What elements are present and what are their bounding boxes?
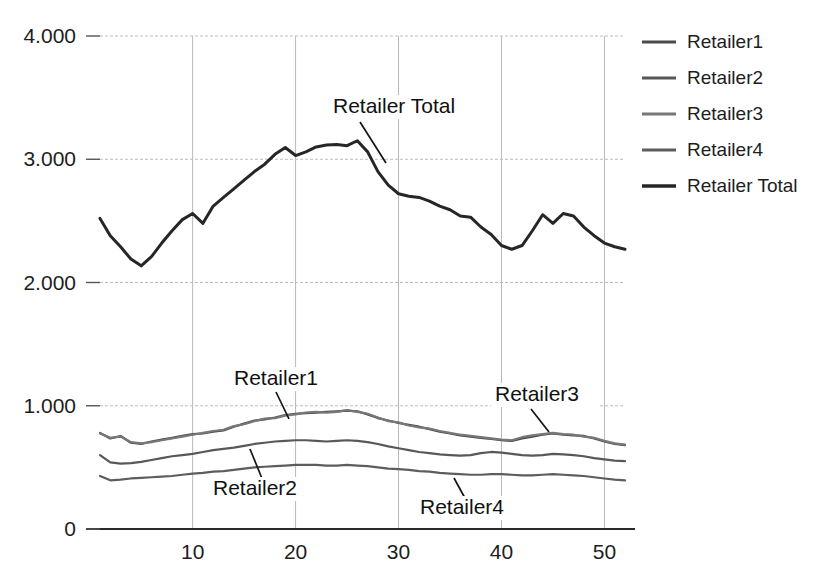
legend-label-retailer-total[interactable]: Retailer Total xyxy=(687,175,798,196)
line-chart: 01.0002.0003.0004.0001020304050 Retailer… xyxy=(0,0,825,584)
legend-label-retailer1[interactable]: Retailer1 xyxy=(687,31,763,52)
x-axis-tick-label: 30 xyxy=(387,540,410,563)
y-axis-tick-label: 2.000 xyxy=(23,271,76,294)
annotation-label: Retailer4 xyxy=(420,495,504,518)
annotation-label: Retailer3 xyxy=(495,382,579,405)
y-axis-tick-label: 4.000 xyxy=(23,24,76,47)
annotation-label: Retailer2 xyxy=(213,476,297,499)
legend-label-retailer4[interactable]: Retailer4 xyxy=(687,139,763,160)
legend-label-retailer2[interactable]: Retailer2 xyxy=(687,67,763,88)
y-axis-tick-label: 0 xyxy=(64,517,76,540)
x-axis-tick-label: 10 xyxy=(181,540,204,563)
x-axis-tick-label: 50 xyxy=(593,540,616,563)
x-axis-tick-label: 20 xyxy=(284,540,307,563)
y-axis-tick-label: 1.000 xyxy=(23,394,76,417)
annotation-label: Retailer1 xyxy=(234,366,318,389)
annotation-label: Retailer Total xyxy=(333,94,455,117)
legend-label-retailer3[interactable]: Retailer3 xyxy=(687,103,763,124)
chart-container: 01.0002.0003.0004.0001020304050 Retailer… xyxy=(0,0,825,584)
x-axis-tick-label: 40 xyxy=(490,540,513,563)
y-axis-tick-label: 3.000 xyxy=(23,147,76,170)
